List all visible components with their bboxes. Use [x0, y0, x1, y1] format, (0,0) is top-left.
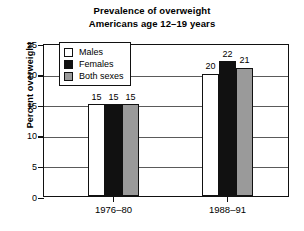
bar-males-1988-91[interactable] [202, 74, 219, 196]
bar-group-1988-91: 20 22 21 1988–91 [202, 45, 253, 196]
bar-females-1976-80[interactable] [105, 104, 122, 196]
legend-item-both-sexes[interactable]: Both sexes [64, 70, 124, 82]
bar-value-both-sexes-1988-91: 21 [230, 56, 260, 65]
legend-label-males: Males [79, 48, 103, 57]
x-tick-label-1988-91: 1988–91 [183, 205, 273, 215]
chart-figure: Prevalence of overweight Americans age 1… [0, 0, 304, 231]
x-tick-mark-1988-91 [227, 196, 229, 202]
bar-both-sexes-1988-91[interactable] [236, 68, 253, 197]
legend-item-females[interactable]: Females [64, 58, 124, 70]
y-tick-label-5: 5 [4, 163, 44, 172]
chart-legend: Males Females Both sexes [59, 42, 131, 86]
y-tick-label-25: 25 [4, 41, 44, 50]
legend-swatch-females-icon [64, 60, 73, 69]
bar-males-1976-80[interactable] [88, 104, 105, 196]
legend-swatch-both-sexes-icon [64, 72, 73, 81]
chart-subtitle: Americans age 12–19 years [0, 17, 304, 30]
x-tick-mark-1976-80 [113, 196, 115, 202]
bar-both-sexes-1976-80[interactable] [122, 104, 139, 196]
legend-swatch-males-icon [64, 48, 73, 57]
chart-title: Prevalence of overweight [0, 4, 304, 17]
plot-area: 25 20 15 10 5 0 15 15 15 [43, 44, 289, 197]
y-tick-label-20: 20 [4, 71, 44, 80]
y-tick-label-15: 15 [4, 102, 44, 111]
legend-label-both-sexes: Both sexes [79, 72, 124, 81]
legend-item-males[interactable]: Males [64, 46, 124, 58]
chart-title-block: Prevalence of overweight Americans age 1… [0, 4, 304, 30]
bar-value-both-sexes-1976-80: 15 [116, 93, 146, 102]
y-tick-label-0: 0 [4, 194, 44, 203]
legend-label-females: Females [79, 60, 114, 69]
bar-females-1988-91[interactable] [219, 61, 236, 196]
y-tick-label-10: 10 [4, 132, 44, 141]
x-tick-label-1976-80: 1976–80 [69, 205, 159, 215]
